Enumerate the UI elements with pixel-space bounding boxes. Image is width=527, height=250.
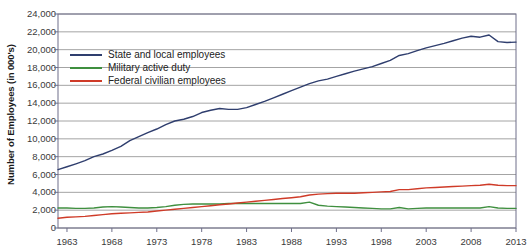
legend-label-2: Federal civilian employees [108, 76, 226, 86]
legend-swatch-0 [70, 54, 102, 56]
legend-label-1: Military active duty [108, 63, 190, 73]
chart-legend: State and local employeesMilitary active… [70, 48, 226, 87]
axis-lines [54, 14, 516, 232]
grid-lines [58, 14, 516, 228]
legend-swatch-2 [70, 80, 102, 82]
legend-item-1: Military active duty [70, 61, 226, 74]
series-line-1 [58, 202, 516, 209]
line-chart: Number of Employees (in 000's) 02,0004,0… [0, 0, 527, 250]
series-line-2 [58, 184, 516, 218]
plot-area [0, 0, 527, 250]
legend-label-0: State and local employees [108, 50, 225, 60]
legend-item-0: State and local employees [70, 48, 226, 61]
legend-swatch-1 [70, 67, 102, 69]
legend-item-2: Federal civilian employees [70, 74, 226, 87]
